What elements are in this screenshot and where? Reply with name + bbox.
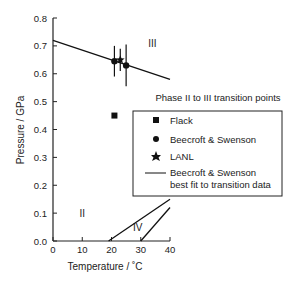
square-marker-icon <box>153 117 159 123</box>
x-tick-label: 30 <box>135 244 146 255</box>
y-tick-label: 0.1 <box>34 208 47 219</box>
legend-flack: Flack <box>170 115 193 126</box>
legend-lanl: LANL <box>170 151 194 162</box>
series-line <box>141 208 170 241</box>
y-tick-label: 0.7 <box>34 40 47 51</box>
y-tick-label: 0.0 <box>34 236 47 247</box>
y-tick-label: 0.5 <box>34 96 47 107</box>
region-label: II <box>79 208 85 219</box>
circle-marker-icon <box>153 136 159 142</box>
y-tick-label: 0.3 <box>34 152 47 163</box>
y-axis-label: Pressure / GPa <box>15 95 26 164</box>
data-point-square <box>111 113 117 119</box>
y-tick-label: 0.2 <box>34 180 47 191</box>
legend: Phase II to III transition points Flack … <box>133 92 282 196</box>
x-tick-label: 20 <box>106 244 117 255</box>
legend-beecroft: Beecroft & Swenson <box>170 134 256 145</box>
y-tick-label: 0.4 <box>34 124 47 135</box>
y-tick-label: 0.6 <box>34 68 47 79</box>
legend-fit-2: best fit to transition data <box>170 179 272 190</box>
data-point-circle <box>111 58 117 64</box>
legend-title: Phase II to III transition points <box>155 92 280 103</box>
legend-fit-1: Beecroft & Swenson <box>170 167 256 178</box>
series-line <box>109 199 170 241</box>
x-axis-label: Temperature / ˚C <box>67 261 142 272</box>
x-tick-label: 40 <box>165 244 176 255</box>
x-tick-label: 0 <box>50 244 55 255</box>
star-marker-icon <box>151 151 161 161</box>
plot-area: IIIIIIV <box>53 38 170 241</box>
x-tick-label: 10 <box>77 244 88 255</box>
data-point-circle <box>123 62 129 68</box>
y-tick-label: 0.8 <box>34 13 47 24</box>
region-label: III <box>148 38 156 49</box>
chart: 0102030400.00.10.20.30.40.50.60.70.8 III… <box>0 0 297 281</box>
